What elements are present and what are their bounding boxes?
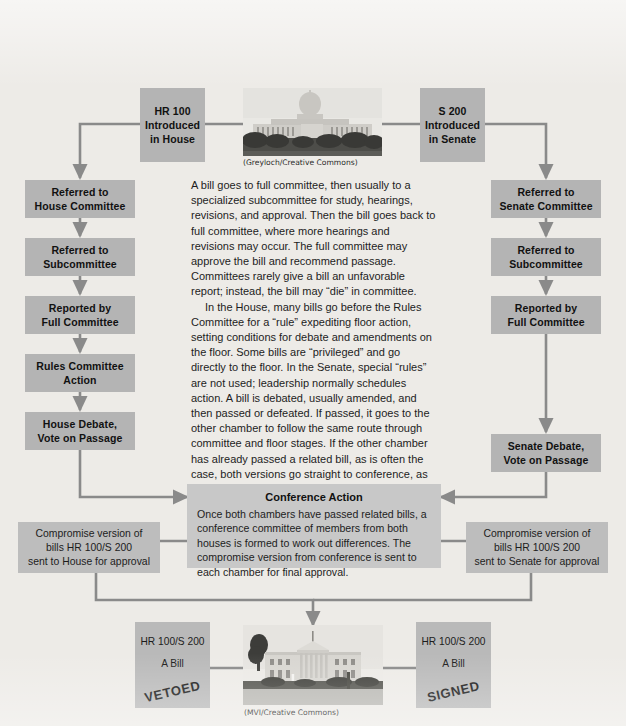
- white-house-photo: [243, 625, 383, 705]
- node-bill-signed[interactable]: HR 100/S 200 A Bill SIGNED: [416, 622, 491, 708]
- node-referred-house-committee-label: Referred to House Committee: [31, 185, 130, 213]
- node-compromise-house[interactable]: Compromise version of bills HR 100/S 200…: [18, 522, 160, 573]
- narrative-paragraph-2: In the House, many bills go before the R…: [191, 300, 436, 498]
- node-senate-reported-full-committee[interactable]: Reported by Full Committee: [491, 296, 601, 334]
- node-hr100-introduced-label: HR 100 Introduced in House: [141, 104, 204, 147]
- conference-action-title: Conference Action: [197, 491, 431, 503]
- node-senate-debate-vote-label: Senate Debate, Vote on Passage: [500, 439, 593, 467]
- node-senate-reported-full-committee-label: Reported by Full Committee: [503, 301, 588, 329]
- node-house-referred-subcommittee[interactable]: Referred to Subcommittee: [25, 238, 135, 276]
- flowchart-canvas: (Greyloch/Creative Commons): [0, 0, 626, 726]
- node-house-reported-full-committee[interactable]: Reported by Full Committee: [25, 296, 135, 334]
- node-bill-signed-number: HR 100/S 200: [416, 636, 491, 647]
- node-bill-vetoed-subtitle: A Bill: [135, 658, 210, 669]
- conference-action-body: Once both chambers have passed related b…: [197, 507, 431, 579]
- node-hr100-introduced[interactable]: HR 100 Introduced in House: [140, 88, 205, 162]
- node-referred-senate-committee-label: Referred to Senate Committee: [495, 185, 596, 213]
- capitol-photo-credit: (Greyloch/Creative Commons): [243, 158, 358, 167]
- node-compromise-senate-label: Compromise version of bills HR 100/S 200…: [475, 527, 600, 569]
- node-bill-vetoed[interactable]: HR 100/S 200 A Bill VETOED: [135, 622, 210, 708]
- narrative-text: A bill goes to full committee, then usua…: [191, 178, 436, 497]
- white-house-photo-credit: (MVI/Creative Commons): [244, 708, 339, 717]
- vetoed-stamp: VETOED: [134, 676, 210, 707]
- node-bill-vetoed-number: HR 100/S 200: [135, 636, 210, 647]
- node-compromise-senate[interactable]: Compromise version of bills HR 100/S 200…: [466, 522, 608, 573]
- node-referred-senate-committee[interactable]: Referred to Senate Committee: [491, 180, 601, 218]
- node-house-debate-vote-label: House Debate, Vote on Passage: [34, 417, 127, 445]
- node-house-referred-subcommittee-label: Referred to Subcommittee: [39, 243, 121, 271]
- capitol-photo: [243, 88, 382, 156]
- node-senate-referred-subcommittee[interactable]: Referred to Subcommittee: [491, 238, 601, 276]
- narrative-paragraph-1: A bill goes to full committee, then usua…: [191, 178, 436, 300]
- node-house-reported-full-committee-label: Reported by Full Committee: [37, 301, 122, 329]
- node-referred-house-committee[interactable]: Referred to House Committee: [25, 180, 135, 218]
- node-bill-signed-subtitle: A Bill: [416, 658, 491, 669]
- node-s200-introduced-label: S 200 Introduced in Senate: [421, 104, 484, 147]
- node-senate-debate-vote[interactable]: Senate Debate, Vote on Passage: [491, 434, 601, 472]
- node-compromise-house-label: Compromise version of bills HR 100/S 200…: [28, 527, 150, 569]
- node-s200-introduced[interactable]: S 200 Introduced in Senate: [420, 88, 485, 162]
- conference-action-panel[interactable]: Conference Action Once both chambers hav…: [187, 484, 441, 568]
- node-rules-committee-action[interactable]: Rules Committee Action: [25, 354, 135, 392]
- signed-stamp: SIGNED: [415, 676, 491, 707]
- node-house-debate-vote[interactable]: House Debate, Vote on Passage: [25, 412, 135, 450]
- node-senate-referred-subcommittee-label: Referred to Subcommittee: [505, 243, 587, 271]
- node-rules-committee-action-label: Rules Committee Action: [32, 359, 127, 387]
